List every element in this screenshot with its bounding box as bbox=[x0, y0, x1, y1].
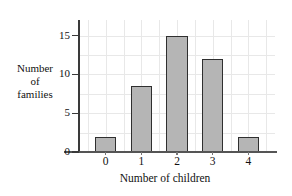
vertical-gridline bbox=[195, 20, 196, 152]
y-tick-mark bbox=[72, 113, 79, 114]
y-tick-label-10: 10 bbox=[40, 68, 70, 79]
vertical-gridline bbox=[248, 20, 249, 152]
x-tick-label-4: 4 bbox=[236, 155, 260, 167]
bar-3 bbox=[202, 59, 223, 152]
x-tick-mark bbox=[105, 152, 106, 155]
vertical-gridline bbox=[159, 20, 160, 152]
vertical-gridline bbox=[124, 20, 125, 152]
x-tick-label-0: 0 bbox=[94, 155, 118, 167]
bar-chart-figure: Number of families 051015 01234 Number o… bbox=[0, 0, 292, 196]
bar-0 bbox=[95, 137, 116, 153]
y-tick-label-0: 0 bbox=[40, 146, 70, 157]
x-tick-mark bbox=[248, 152, 249, 155]
y-axis-line bbox=[78, 20, 80, 153]
y-axis-title-line-3: families bbox=[4, 88, 66, 101]
x-axis-title: Number of children bbox=[60, 172, 270, 184]
y-tick-label-5: 5 bbox=[40, 107, 70, 118]
x-tick-mark bbox=[212, 152, 213, 155]
bar-2 bbox=[166, 36, 187, 153]
plot-area bbox=[79, 20, 275, 152]
x-tick-mark bbox=[176, 152, 177, 155]
x-tick-mark bbox=[141, 152, 142, 155]
x-tick-label-2: 2 bbox=[165, 155, 189, 167]
vertical-gridline bbox=[88, 20, 89, 152]
vertical-gridline bbox=[106, 20, 107, 152]
y-tick-label-15: 15 bbox=[40, 30, 70, 41]
x-tick-label-1: 1 bbox=[129, 155, 153, 167]
vertical-gridline bbox=[231, 20, 232, 152]
bar-4 bbox=[238, 137, 259, 153]
y-tick-mark bbox=[72, 74, 79, 75]
y-tick-mark bbox=[72, 35, 79, 36]
y-tick-mark bbox=[72, 151, 79, 152]
bar-1 bbox=[131, 86, 152, 152]
x-axis-line bbox=[64, 151, 277, 153]
vertical-gridline bbox=[266, 20, 267, 152]
x-tick-label-3: 3 bbox=[201, 155, 225, 167]
